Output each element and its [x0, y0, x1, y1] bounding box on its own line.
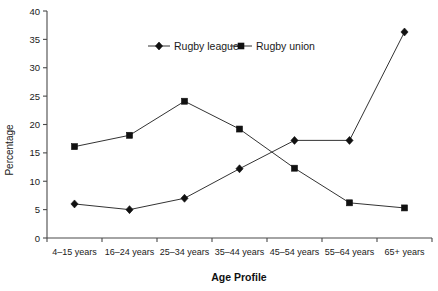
data-series — [72, 98, 408, 211]
square-marker-icon — [347, 200, 353, 206]
y-tick-label: 35 — [29, 34, 40, 45]
series-line — [75, 101, 405, 208]
x-tick-label: 25–34 years — [160, 247, 210, 257]
x-axis-ticks — [47, 238, 432, 242]
y-tick-label: 0 — [35, 233, 40, 244]
x-tick-label: 55–64 years — [325, 247, 375, 257]
x-tick-label: 4–15 years — [52, 247, 97, 257]
y-tick-label: 15 — [29, 147, 40, 158]
square-marker-icon — [182, 98, 188, 104]
series-line — [75, 32, 405, 210]
diamond-marker-icon — [181, 194, 188, 202]
data-series-layer — [71, 28, 408, 214]
x-axis-title-text: Age Profile — [211, 271, 267, 283]
square-marker-icon — [72, 144, 78, 150]
x-tick-label: 65+ years — [385, 247, 425, 257]
y-tick-label: 10 — [29, 176, 40, 187]
y-tick-label: 20 — [29, 119, 40, 130]
x-tick-label: 45–54 years — [270, 247, 320, 257]
x-axis-labels: 4–15 years16–24 years25–34 years35–44 ye… — [52, 247, 425, 257]
diamond-marker-icon — [401, 28, 408, 36]
y-axis-ticks: 0510152025303540 — [29, 6, 47, 244]
chart-container: Percentage 0510152025303540 4–15 years16… — [0, 0, 438, 291]
y-axis-title-text: Percentage — [4, 124, 15, 176]
x-tick-label: 35–44 years — [215, 247, 265, 257]
diamond-marker-icon — [236, 165, 243, 173]
chart-legend: Rugby leagueRugby union — [148, 40, 315, 52]
legend-label: Rugby union — [256, 40, 315, 52]
diamond-icon — [155, 42, 162, 50]
diamond-marker-icon — [291, 136, 298, 144]
legend-label: Rugby league — [174, 40, 239, 52]
square-marker-icon — [127, 132, 133, 138]
x-tick-label: 16–24 years — [105, 247, 155, 257]
square-icon — [238, 43, 244, 49]
y-tick-label: 25 — [29, 91, 40, 102]
square-marker-icon — [237, 126, 243, 132]
y-tick-label: 30 — [29, 62, 40, 73]
y-tick-label: 40 — [29, 6, 40, 17]
diamond-marker-icon — [71, 200, 78, 208]
line-chart: Percentage 0510152025303540 4–15 years16… — [0, 0, 438, 291]
y-tick-label: 5 — [35, 204, 40, 215]
y-axis-title: Percentage — [4, 124, 15, 176]
legend-entry[interactable]: Rugby union — [230, 40, 315, 52]
legend-entry[interactable]: Rugby league — [148, 40, 239, 52]
data-series — [71, 28, 408, 214]
diamond-marker-icon — [346, 136, 353, 144]
square-marker-icon — [292, 165, 298, 171]
diamond-marker-icon — [126, 206, 133, 214]
square-marker-icon — [402, 205, 408, 211]
